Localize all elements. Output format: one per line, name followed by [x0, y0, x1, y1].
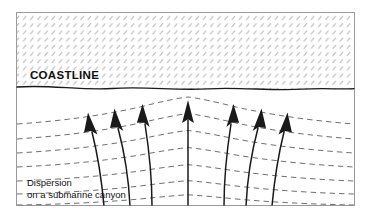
dispersion-submarine-canyon-figure: COASTLINE — [0, 0, 371, 219]
coastline-label: COASTLINE — [30, 69, 99, 81]
caption-line-2: on a submarine canyon — [27, 189, 126, 200]
caption-line-1: Dispersion — [27, 177, 72, 188]
figure-root: COASTLINE — [0, 0, 371, 219]
